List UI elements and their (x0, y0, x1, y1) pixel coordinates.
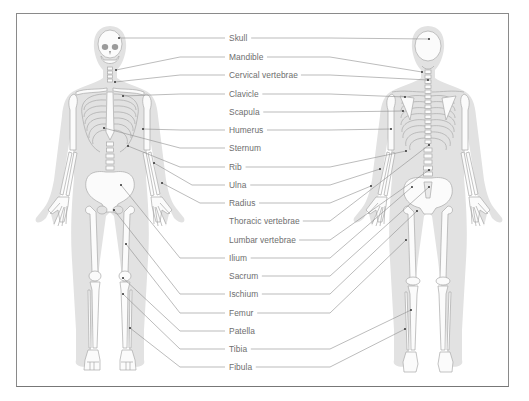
leader-line-back (262, 94, 405, 97)
label-sternum: Sternum (229, 143, 261, 153)
leader-line-back (256, 329, 405, 367)
leader-line-back (259, 186, 371, 203)
leader-line-back (250, 169, 380, 185)
label-humerus: Humerus (229, 125, 263, 135)
label-cervical-vertebrae: Cervical vertebrae (229, 70, 298, 80)
label-ischium: Ischium (229, 289, 258, 299)
skeleton-diagram (0, 0, 529, 401)
label-scapula: Scapula (229, 107, 260, 117)
back-skeleton (354, 26, 503, 372)
leader-line-back (251, 310, 411, 349)
front-skeleton (36, 26, 185, 370)
leader-line-front (115, 75, 225, 82)
label-mandible: Mandible (229, 52, 263, 62)
leader-line-front (116, 57, 225, 70)
label-patella: Patella (229, 326, 255, 336)
label-sacrum: Sacrum (229, 271, 258, 281)
label-ulna: Ulna (229, 180, 246, 190)
label-fibula: Fibula (229, 362, 252, 372)
leader-line-back (301, 75, 428, 80)
leader-line-back (251, 38, 429, 39)
label-lumbar-vertebrae: Lumbar vertebrae (229, 235, 296, 245)
leader-line-back (267, 129, 391, 130)
label-clavicle: Clavicle (229, 89, 259, 99)
label-ilium: Ilium (229, 253, 247, 263)
leader-line-front (162, 183, 225, 203)
label-radius: Radius (229, 198, 255, 208)
label-thoracic-vertebrae: Thoracic vertebrae (229, 216, 300, 226)
label-femur: Femur (229, 308, 253, 318)
label-rib: Rib (229, 162, 242, 172)
leader-line-back (257, 240, 406, 313)
label-skull: Skull (229, 33, 247, 43)
label-tibia: Tibia (229, 344, 247, 354)
